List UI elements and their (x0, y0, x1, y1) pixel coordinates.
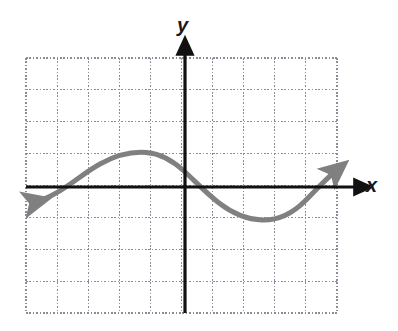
sinusoidal-curve-graph: y x (0, 0, 398, 331)
graph-canvas (0, 0, 398, 331)
x-axis-label: x (366, 175, 377, 195)
y-axis-label: y (177, 15, 188, 35)
